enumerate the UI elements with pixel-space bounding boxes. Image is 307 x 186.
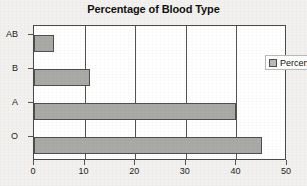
bar-A[interactable] (34, 103, 236, 120)
x-axis-tick (84, 160, 85, 165)
bar-row[interactable] (34, 69, 287, 86)
x-axis-label-10: 10 (71, 166, 97, 176)
bar-row[interactable] (34, 35, 287, 52)
legend-label: Percent (280, 58, 307, 68)
x-axis-label-40: 40 (222, 166, 248, 176)
x-axis-tick (134, 160, 135, 165)
bar-row[interactable] (34, 103, 287, 120)
chart-legend[interactable]: Percent (265, 55, 307, 70)
y-axis-tick (28, 136, 33, 137)
x-axis-tick (235, 160, 236, 165)
y-axis-label-B: B (0, 63, 18, 73)
x-axis-label-20: 20 (121, 166, 147, 176)
y-axis-label-O: O (0, 131, 18, 141)
y-axis-label-A: A (0, 97, 18, 107)
legend-swatch-icon (269, 59, 277, 67)
x-axis-tick (33, 160, 34, 165)
y-axis-tick (28, 34, 33, 35)
x-axis-label-0: 0 (20, 166, 46, 176)
bar-AB[interactable] (34, 35, 54, 52)
y-axis-tick (28, 102, 33, 103)
x-axis-tick (185, 160, 186, 165)
y-axis-tick (28, 68, 33, 69)
plot-area: Percent (33, 25, 286, 160)
bar-row[interactable] (34, 137, 287, 154)
x-axis-label-30: 30 (172, 166, 198, 176)
chart-title: Percentage of Blood Type (0, 3, 307, 15)
x-axis-label-50: 50 (273, 166, 299, 176)
y-axis-label-AB: AB (0, 29, 18, 39)
x-axis-tick (286, 160, 287, 165)
bar-B[interactable] (34, 69, 90, 86)
bar-O[interactable] (34, 137, 262, 154)
